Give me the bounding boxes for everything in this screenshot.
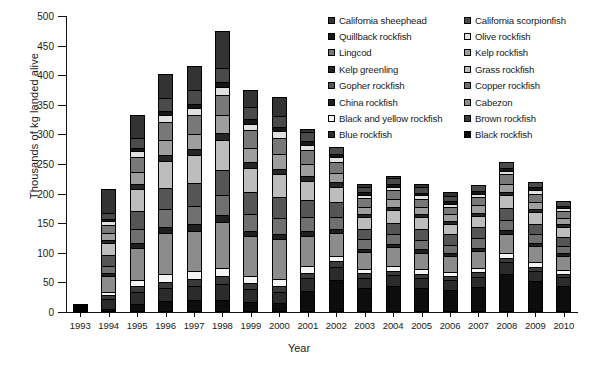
y-tick (58, 105, 66, 106)
x-axis-title: Year (0, 342, 598, 354)
legend-label: Copper rockfish (475, 80, 540, 91)
bar-segment (159, 75, 172, 99)
bar-segment (102, 267, 115, 275)
legend-item[interactable]: Cabezon (464, 94, 596, 110)
chart-figure: Thousands of kg landed alive Year 050100… (0, 0, 598, 369)
bar-2008[interactable] (499, 162, 514, 312)
bar-1996[interactable] (158, 74, 173, 312)
y-tick (58, 46, 66, 47)
bar-2002[interactable] (329, 147, 344, 312)
bar-segment (358, 208, 371, 215)
y-tick-label: 200 (14, 194, 54, 195)
legend-label: Brown rockfish (475, 113, 536, 124)
bar-2005[interactable] (414, 184, 429, 312)
bar-segment (159, 189, 172, 211)
bar-segment (500, 175, 513, 184)
legend-label: Cabezon (475, 97, 512, 108)
bar-segment (131, 305, 144, 311)
bar-segment (131, 230, 144, 244)
bar-2007[interactable] (471, 185, 486, 312)
x-tick (365, 312, 366, 317)
bar-segment (188, 287, 201, 301)
legend-item[interactable]: Quillback rockfish (328, 28, 464, 44)
bar-segment (188, 272, 201, 280)
legend-item[interactable]: Kelp rockfish (464, 45, 596, 61)
legend-item[interactable]: Kelp greenling (328, 61, 464, 77)
bar-segment (444, 246, 457, 255)
bar-segment (301, 237, 314, 268)
legend-swatch-icon (464, 66, 471, 73)
bar-segment (102, 244, 115, 256)
legend-item[interactable]: Brown rockfish (464, 110, 596, 126)
legend-swatch-icon (328, 82, 335, 89)
bar-segment (273, 198, 286, 219)
bar-segment (159, 99, 172, 112)
legend-label: Kelp rockfish (475, 47, 528, 58)
legend-item[interactable]: Copper rockfish (464, 78, 596, 94)
bar-segment (557, 212, 570, 219)
legend-swatch-icon (464, 115, 471, 122)
y-tick (58, 253, 66, 254)
bar-segment (444, 281, 457, 291)
bar-segment (444, 225, 457, 236)
bar-segment (273, 280, 286, 287)
bar-1999[interactable] (243, 90, 258, 312)
bar-2009[interactable] (528, 182, 543, 312)
bar-1994[interactable] (101, 189, 116, 312)
bar-1997[interactable] (187, 66, 202, 312)
bar-segment (159, 234, 172, 275)
bar-2003[interactable] (357, 184, 372, 312)
bar-segment (472, 278, 485, 288)
bar-segment (330, 218, 343, 230)
bar-segment (273, 117, 286, 128)
bar-segment (216, 171, 229, 196)
bar-segment (444, 291, 457, 311)
bar-segment (273, 139, 286, 156)
legend-item[interactable]: California scorpionfish (464, 12, 596, 28)
legend-item[interactable]: Black and yellow rockfish (328, 110, 464, 126)
x-tick (478, 312, 479, 317)
legend-item[interactable]: California sheephead (328, 12, 464, 28)
bar-segment (244, 131, 257, 148)
bar-segment (102, 300, 115, 309)
bar-segment (301, 182, 314, 201)
bar-2006[interactable] (443, 192, 458, 312)
bar-segment (216, 223, 229, 268)
bar-2000[interactable] (272, 97, 287, 312)
bar-segment (500, 221, 513, 231)
bar-segment (472, 228, 485, 239)
bar-segment (358, 289, 371, 311)
bar-segment (188, 116, 201, 135)
legend-item[interactable]: Olive rockfish (464, 28, 596, 44)
legend-item[interactable]: Blue rockfish (328, 127, 464, 143)
legend-item[interactable]: China rockfish (328, 94, 464, 110)
bar-segment (131, 212, 144, 230)
legend-item[interactable]: Lingcod (328, 45, 464, 61)
bar-segment (557, 287, 570, 311)
legend-item[interactable]: Gopher rockfish (328, 78, 464, 94)
x-tick (222, 312, 223, 317)
bar-segment (529, 235, 542, 244)
bar-2001[interactable] (300, 129, 315, 312)
bar-1995[interactable] (130, 115, 145, 312)
bar-2004[interactable] (386, 176, 401, 312)
legend-swatch-icon (328, 115, 335, 122)
legend-item[interactable]: Grass rockfish (464, 61, 596, 77)
y-tick-label: 500 (14, 16, 54, 17)
x-tick (137, 312, 138, 317)
bar-1998[interactable] (215, 31, 230, 312)
bar-segment (557, 228, 570, 238)
y-tick-label: 300 (14, 134, 54, 135)
bar-segment (216, 88, 229, 96)
bar-segment (444, 208, 457, 216)
x-tick (336, 312, 337, 317)
bar-2010[interactable] (556, 201, 571, 312)
bar-segment (216, 285, 229, 301)
bar-segment (244, 169, 257, 194)
bar-1993[interactable] (73, 304, 88, 312)
legend-swatch-icon (328, 49, 335, 56)
bar-segment (188, 232, 201, 273)
legend-item[interactable]: Black rockfish (464, 127, 596, 143)
y-tick (58, 134, 66, 135)
bar-segment (273, 304, 286, 311)
